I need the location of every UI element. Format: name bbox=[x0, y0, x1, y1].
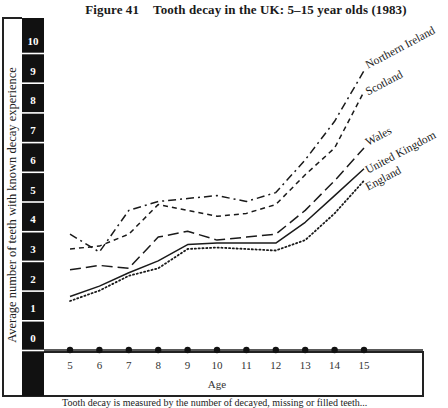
series-line-northern-ireland bbox=[70, 71, 364, 252]
y-tick-label: 8 bbox=[30, 94, 36, 106]
x-axis-label: Age bbox=[208, 378, 226, 390]
x-tick-label: 12 bbox=[270, 359, 281, 371]
x-tick-dot bbox=[184, 347, 190, 353]
y-tick-label: 4 bbox=[30, 213, 36, 225]
series-line-scotland bbox=[70, 92, 364, 249]
figure-caption: Tooth decay is measured by the number of… bbox=[62, 397, 367, 408]
chart-frame bbox=[3, 18, 423, 396]
series-line-united-kingdom bbox=[70, 169, 364, 297]
x-tick-label: 8 bbox=[155, 359, 161, 371]
x-tick-label: 15 bbox=[359, 359, 371, 371]
y-tick-label: 2 bbox=[30, 273, 36, 285]
x-tick-dot bbox=[155, 347, 161, 353]
x-tick-dot bbox=[361, 347, 367, 353]
x-tick-label: 11 bbox=[241, 359, 252, 371]
x-tick-label: 14 bbox=[329, 359, 341, 371]
y-tick-label: 7 bbox=[30, 124, 36, 136]
x-tick-label: 7 bbox=[126, 359, 132, 371]
x-tick-dot bbox=[243, 347, 249, 353]
y-tick-label: 6 bbox=[30, 154, 36, 166]
series-label: Northern Ireland bbox=[363, 24, 437, 71]
x-tick-label: 13 bbox=[300, 359, 312, 371]
x-tick-dot bbox=[126, 347, 132, 353]
x-tick-dot bbox=[273, 347, 279, 353]
x-tick-dot bbox=[214, 347, 220, 353]
x-axis: 56789101112131415Age bbox=[44, 347, 423, 390]
x-tick-label: 5 bbox=[67, 359, 73, 371]
series-label: Wales bbox=[363, 124, 394, 148]
y-tick-label: 0 bbox=[30, 332, 36, 344]
y-tick-label: 9 bbox=[30, 65, 36, 77]
y-tick-label: 3 bbox=[30, 243, 36, 255]
x-tick-dot bbox=[67, 347, 73, 353]
y-tick-label: 1 bbox=[30, 302, 36, 314]
x-tick-label: 10 bbox=[212, 359, 224, 371]
x-tick-label: 9 bbox=[185, 359, 191, 371]
x-tick-dot bbox=[331, 347, 337, 353]
y-axis-label: Average number of teeth with known decay… bbox=[5, 67, 19, 343]
series-label: Scotland bbox=[363, 68, 404, 98]
series-group: Northern IrelandScotlandWalesUnited King… bbox=[70, 24, 438, 301]
x-tick-dot bbox=[302, 347, 308, 353]
y-axis: 012345678910Average number of teeth with… bbox=[5, 18, 44, 396]
x-tick-dot bbox=[96, 347, 102, 353]
y-tick-label: 5 bbox=[30, 184, 36, 196]
x-tick-label: 6 bbox=[97, 359, 103, 371]
y-tick-label: 10 bbox=[28, 35, 40, 47]
